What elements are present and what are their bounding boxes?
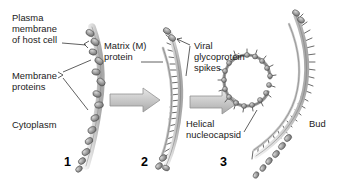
- label-helical-nucleocapsid: Helical nucleocapsid: [186, 118, 241, 140]
- arrow-step1-to-step2: [110, 88, 160, 112]
- leader-line-nucleocapsid: [244, 110, 257, 132]
- label-viral-glycoprotein-spikes: Viral glycoprotein spikes: [194, 40, 245, 74]
- step3-budding-group: [218, 9, 315, 180]
- label-cytoplasm: Cytoplasm: [12, 119, 56, 130]
- viral-budding-diagram: Plasma membrane of host cell Membrane pr…: [0, 0, 337, 194]
- step1-membrane-group: [58, 27, 107, 173]
- step-number-2: 2: [141, 155, 148, 169]
- label-plasma-membrane: Plasma membrane of host cell: [12, 12, 57, 46]
- label-bud: Bud: [309, 118, 326, 129]
- step-number-1: 1: [64, 155, 71, 169]
- step-number-3: 3: [220, 155, 227, 169]
- label-matrix-protein: Matrix (M) protein: [104, 40, 146, 62]
- label-membrane-proteins: Membrane proteins: [12, 70, 57, 92]
- arrow-step2-to-step3: [190, 90, 239, 114]
- leader-lines-step1: [58, 41, 91, 110]
